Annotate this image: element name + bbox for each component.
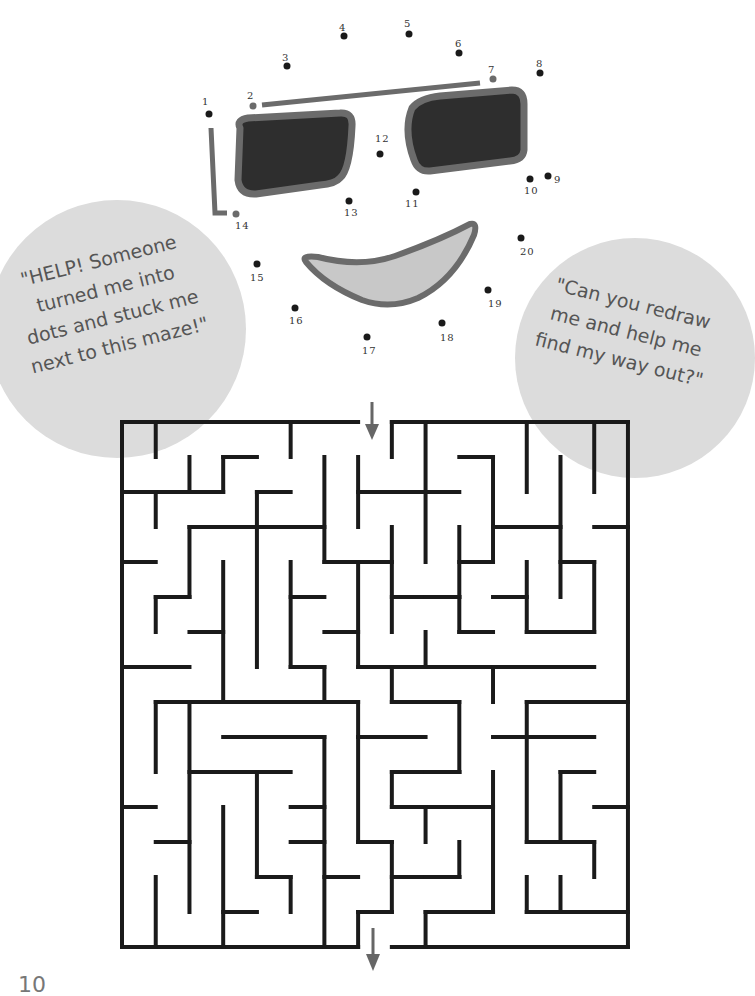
dot-label-10: 10 — [524, 185, 539, 196]
dot-label-1: 1 — [202, 96, 209, 107]
dot-15 — [254, 261, 261, 268]
dot-label-13: 13 — [344, 207, 359, 218]
dot-label-9: 9 — [554, 174, 561, 185]
dot-label-8: 8 — [536, 58, 543, 69]
exit-arrow-icon — [366, 928, 380, 971]
dot-11 — [413, 189, 420, 196]
dot-label-14: 14 — [235, 220, 250, 231]
dot-3 — [284, 63, 291, 70]
dot-18 — [439, 320, 446, 327]
mouth-smile-icon — [305, 224, 476, 305]
dot-17 — [364, 334, 371, 341]
dot-label-18: 18 — [440, 332, 455, 343]
dot-5 — [406, 31, 413, 38]
dot-label-5: 5 — [404, 18, 411, 29]
dot-label-16: 16 — [289, 315, 304, 326]
dot-20 — [518, 235, 525, 242]
page-number: 10 — [18, 972, 46, 996]
maze — [122, 422, 628, 947]
dot-12 — [377, 151, 384, 158]
dot-10 — [527, 176, 534, 183]
dot-4 — [341, 33, 348, 40]
dot-14 — [233, 211, 240, 218]
dot-19 — [485, 287, 492, 294]
glasses-arm-line — [211, 128, 227, 213]
dot-1 — [206, 111, 213, 118]
dot-label-7: 7 — [488, 64, 495, 75]
dot-label-6: 6 — [455, 38, 462, 49]
dot-13 — [346, 198, 353, 205]
dot-label-20: 20 — [520, 246, 535, 257]
entrance-arrow-icon — [365, 402, 379, 440]
dot-8 — [537, 70, 544, 77]
dot-label-4: 4 — [339, 22, 346, 33]
dot-2 — [250, 103, 257, 110]
dot-label-17: 17 — [362, 345, 377, 356]
dot-label-19: 19 — [488, 298, 503, 309]
dot-label-15: 15 — [250, 272, 265, 283]
dot-6 — [456, 50, 463, 57]
dot-7 — [490, 76, 497, 83]
dot-label-11: 11 — [405, 198, 420, 209]
dot-16 — [292, 305, 299, 312]
dot-label-3: 3 — [282, 52, 289, 63]
dot-9 — [545, 173, 552, 180]
dot-label-2: 2 — [247, 90, 254, 101]
dot-label-12: 12 — [375, 133, 390, 144]
left-lens-icon — [238, 113, 352, 194]
right-lens-icon — [408, 90, 524, 171]
